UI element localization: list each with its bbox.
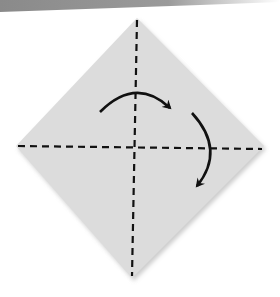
origami-diagram <box>0 0 280 297</box>
top-band <box>0 0 280 12</box>
